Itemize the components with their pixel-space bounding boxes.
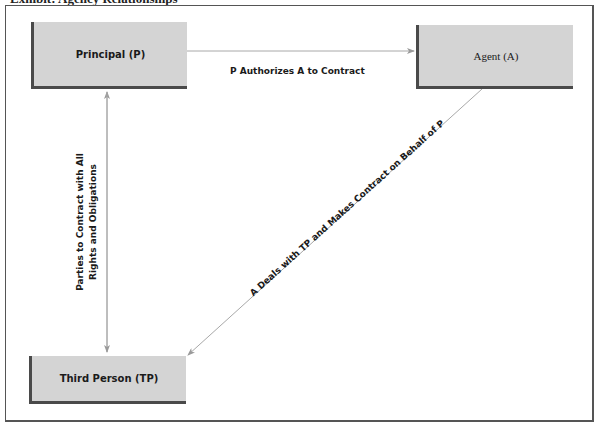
node-principal: Principal (P) (31, 22, 187, 89)
node-agent-label: Agent (A) (474, 50, 519, 62)
edge-label-parties: Parties to Contract with All Rights and … (74, 153, 100, 291)
node-third-person-label: Third Person (TP) (60, 373, 159, 384)
node-principal-label: Principal (P) (76, 49, 145, 60)
edge-label-parties-line1: Parties to Contract with All (74, 153, 87, 291)
edge-label-parties-line2: Rights and Obligations (87, 153, 100, 291)
edge-label-authorizes: P Authorizes A to Contract (230, 66, 365, 76)
node-third-person: Third Person (TP) (29, 356, 186, 404)
node-agent: Agent (A) (416, 25, 573, 89)
